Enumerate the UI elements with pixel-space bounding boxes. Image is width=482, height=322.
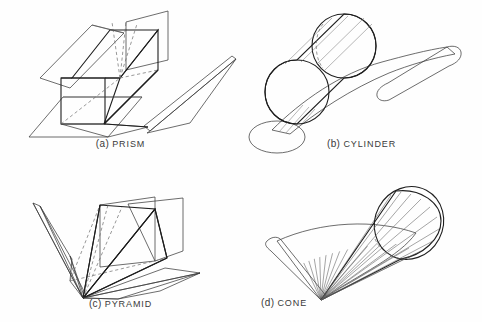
- caption-pyramid: (c) PYRAMID: [0, 298, 241, 309]
- pyramid-hidden-edge-apex-1: [83, 205, 108, 298]
- caption-cylinder: (b) CYLINDER: [241, 138, 482, 149]
- pyramid-edge-right-slant: [155, 209, 167, 258]
- cylinder-near-end-circle: [265, 60, 329, 124]
- caption-cylinder-name: CYLINDER: [343, 139, 396, 149]
- pyramid-edge-unfold-left: [33, 203, 83, 298]
- pyramid-edge-apex-left: [83, 205, 100, 298]
- cylinder-body-rulings: [285, 16, 372, 70]
- prism-face-front: [61, 78, 105, 124]
- caption-prism-index: (a): [96, 138, 109, 149]
- pyramid-unfolded-face-left: [40, 206, 84, 298]
- pyramid-face-right: [83, 209, 167, 298]
- prism-unfolded-panel-right-lower: [147, 59, 236, 133]
- figure-prism: (a) PRISM: [0, 0, 241, 161]
- caption-prism-name: PRISM: [112, 139, 145, 149]
- cylinder-sheet-rolled-edge: [377, 46, 461, 101]
- prism-edge-base-right: [105, 124, 148, 127]
- caption-cylinder-index: (b): [327, 138, 340, 149]
- cylinder-body: [265, 14, 376, 124]
- pyramid-unfolded-face-left-sliver: [33, 203, 86, 298]
- cylinder-far-end-circle: [312, 14, 376, 78]
- prism-hidden-edge-fold-3: [120, 24, 137, 78]
- figure-cone: (d) CONE: [241, 161, 482, 322]
- caption-pyramid-index: (c): [89, 298, 102, 309]
- prism-illustration: [0, 0, 241, 161]
- figure-grid: (a) PRISM: [0, 0, 482, 322]
- prism-unfolded-panel-rear: [126, 11, 168, 70]
- caption-prism: (a) PRISM: [0, 138, 241, 149]
- caption-cone-name: CONE: [277, 298, 307, 308]
- figure-pyramid: (c) PYRAMID: [0, 161, 241, 322]
- caption-pyramid-name: PYRAMID: [105, 299, 152, 309]
- caption-cone: (d) CONE: [261, 297, 307, 308]
- caption-cone-index: (d): [261, 297, 274, 308]
- pyramid-hidden-edge-apex-2: [83, 207, 122, 298]
- cylinder-illustration: [241, 0, 482, 161]
- prism-face-top: [72, 30, 158, 78]
- figure-cylinder: (b) CYLINDER: [241, 0, 482, 161]
